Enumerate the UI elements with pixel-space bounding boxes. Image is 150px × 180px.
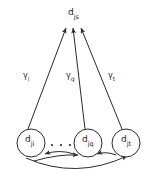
node-label-d-jq-sub: jq bbox=[87, 140, 94, 148]
edge-label-gamma-i-sub: i bbox=[28, 75, 30, 82]
edge-d-ji-to-d-jt bbox=[26, 156, 127, 169]
edge-d-ji-to-d-jq bbox=[34, 155, 78, 161]
ellipsis-dot bbox=[60, 144, 62, 146]
edge-d-jq-to-d-js bbox=[73, 28, 85, 129]
edge-label-gamma-t: γt bbox=[108, 71, 116, 82]
edge-label-gamma-t-sub: t bbox=[113, 75, 116, 82]
edge-d-jt-to-d-js bbox=[81, 28, 122, 129]
edge-group-bottom-row bbox=[26, 152, 127, 169]
ellipsis-dot bbox=[69, 144, 71, 146]
node-label-d-ji-sub: ji bbox=[30, 140, 35, 148]
edge-label-gamma-i: γi bbox=[23, 71, 30, 82]
edge-label-gamma-q: γq bbox=[66, 71, 75, 83]
ellipsis-dots bbox=[51, 144, 71, 146]
edge-d-jt-to-d-jq bbox=[97, 153, 116, 155]
node-label-d-js-sub: js bbox=[73, 13, 80, 21]
node-label-d-jt-sub: jt bbox=[126, 140, 132, 148]
edge-d-jq-to-d-ji bbox=[45, 152, 74, 155]
diagram-canvas: djs dji djq djt γi γq γt bbox=[0, 0, 150, 180]
node-label-d-js: djs bbox=[68, 7, 80, 21]
edge-d-ji-to-d-js bbox=[28, 28, 66, 129]
ellipsis-dot bbox=[51, 144, 53, 146]
graph-diagram-svg: djs dji djq djt γi γq γt bbox=[0, 0, 150, 180]
edge-label-gamma-q-sub: q bbox=[71, 75, 75, 83]
